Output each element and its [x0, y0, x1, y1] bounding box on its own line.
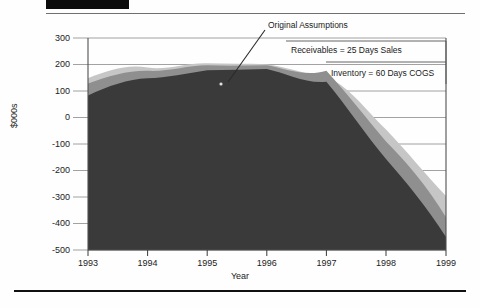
- y-tick-label: 0: [30, 112, 70, 122]
- x-tick-label: 1993: [68, 258, 108, 268]
- x-tick-label: 1999: [426, 258, 466, 268]
- chart-marker-dot: [219, 82, 222, 85]
- y-tick-label: 200: [30, 59, 70, 69]
- annotation-original-assumptions: Original Assumptions: [268, 20, 348, 30]
- y-tick-label: -500: [30, 245, 70, 255]
- y-tick-label: -200: [30, 165, 70, 175]
- y-tick-label: -400: [30, 218, 70, 228]
- y-tick-label: 300: [30, 33, 70, 43]
- x-tick-marks: [88, 250, 446, 256]
- annotation-receivables: Receivables = 25 Days Sales: [291, 45, 402, 55]
- x-tick-label: 1997: [306, 258, 346, 268]
- bottom-divider-rule: [14, 290, 466, 292]
- y-tick-label: -100: [30, 139, 70, 149]
- x-axis-title: Year: [0, 271, 480, 281]
- x-tick-label: 1994: [128, 258, 168, 268]
- page-canvas: $000s 300 200 100 0 -100 -200 -300 -400 …: [0, 0, 480, 308]
- y-axis-title: $000s: [9, 103, 19, 128]
- x-tick-label: 1998: [366, 258, 406, 268]
- area-chart: $000s 300 200 100 0 -100 -200 -300 -400 …: [0, 0, 480, 308]
- y-tick-label: 100: [30, 86, 70, 96]
- y-tick-label: -300: [30, 192, 70, 202]
- annotation-inventory: Inventory = 60 Days COGS: [331, 68, 434, 78]
- x-tick-label: 1996: [247, 258, 287, 268]
- x-tick-label: 1995: [187, 258, 227, 268]
